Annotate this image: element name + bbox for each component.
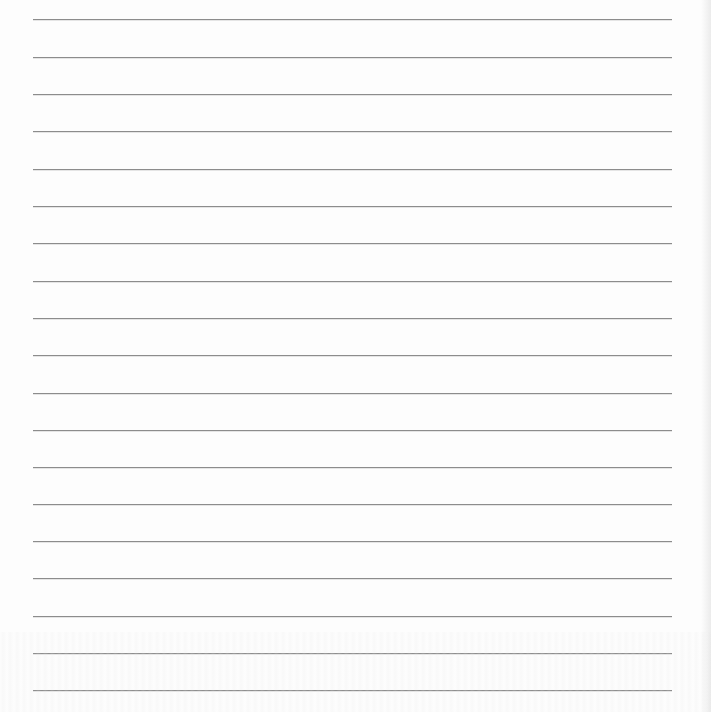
ruled-line: [33, 616, 672, 617]
ruled-line: [33, 318, 672, 319]
ruled-line: [33, 355, 672, 356]
ruled-line: [33, 541, 672, 542]
ruled-line: [33, 243, 672, 244]
ruled-line: [33, 393, 672, 394]
lined-paper-page: [0, 0, 711, 712]
ruled-line: [33, 169, 672, 170]
ruled-line: [33, 131, 672, 132]
ruled-line: [33, 19, 672, 20]
ruled-line: [33, 467, 672, 468]
ruled-line: [33, 94, 672, 95]
ruled-line: [33, 206, 672, 207]
page-edge-shadow: [701, 0, 711, 712]
ruled-line: [33, 57, 672, 58]
ruled-line: [33, 281, 672, 282]
ruled-line: [33, 578, 672, 579]
ruled-line: [33, 504, 672, 505]
ruled-line: [33, 430, 672, 431]
reverse-side-bleed-through: [0, 632, 711, 712]
